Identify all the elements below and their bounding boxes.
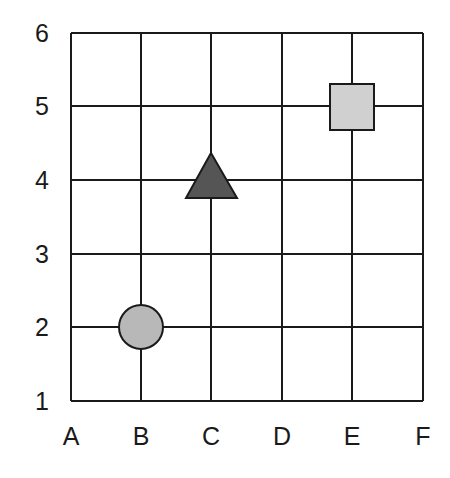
x-tick-d: D — [273, 422, 291, 450]
x-tick-c: C — [202, 422, 220, 450]
markers — [119, 84, 374, 349]
x-tick-b: B — [133, 422, 150, 450]
y-tick-5: 5 — [35, 92, 49, 120]
y-tick-6: 6 — [35, 19, 49, 47]
y-tick-3: 3 — [35, 240, 49, 268]
x-tick-a: A — [63, 422, 80, 450]
square-marker-e5 — [330, 84, 374, 130]
triangle-marker-c4 — [186, 153, 237, 198]
x-tick-e: E — [344, 422, 361, 450]
y-tick-4: 4 — [35, 166, 49, 194]
circle-marker-b2 — [119, 305, 163, 349]
y-tick-1: 1 — [35, 387, 49, 415]
x-axis-ticks: A B C D E F — [63, 422, 431, 450]
y-axis-ticks: 6 5 4 3 2 1 — [35, 19, 49, 415]
y-tick-2: 2 — [35, 313, 49, 341]
x-tick-f: F — [415, 422, 430, 450]
grid-chart: 6 5 4 3 2 1 A B C D E F — [0, 0, 450, 478]
